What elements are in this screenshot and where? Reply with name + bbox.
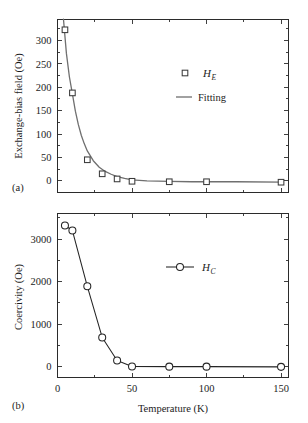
panel-b-x-tick-label: 0	[55, 383, 60, 394]
legend-b-circle-icon	[177, 264, 184, 271]
legend-a-square-icon	[182, 70, 188, 76]
panel-b-data-marker	[203, 363, 210, 370]
panel-b-x-tick-label: 150	[273, 383, 289, 394]
panel-a-data-marker	[70, 90, 76, 96]
legend-a-marker-label-sub: E	[210, 73, 216, 82]
panel-a-data-marker	[99, 171, 105, 177]
panel-b-data-marker	[166, 363, 173, 370]
panel-b-y-tick-label: 3000	[31, 234, 52, 245]
panel-a-data-marker	[204, 179, 210, 185]
panel-a-data-marker	[114, 176, 120, 182]
panel-b-data-marker	[99, 334, 106, 341]
panel-b-data-marker	[129, 363, 136, 370]
panel-b-frame	[58, 214, 289, 378]
panel-b-data-marker	[61, 222, 68, 229]
panel-a-label: (a)	[12, 182, 24, 194]
legend-a-fit-label: Fitting	[198, 92, 227, 103]
panel-b-y-tick-label: 2000	[31, 276, 52, 287]
panel-b-plot: 0100020003000050100150HCCoercivity (Oe)T…	[0, 205, 308, 423]
panel-a-y-tick-label: 50	[41, 152, 52, 163]
panel-a-y-axis-title: Exchange-bias field (Oe)	[13, 53, 25, 159]
panel-b-label: (b)	[12, 400, 25, 412]
panel-a-fitting-curve	[63, 19, 281, 182]
legend-a-marker-label: HE	[202, 67, 216, 82]
panel-b-data-line	[65, 225, 281, 366]
panel-b-x-tick-label: 100	[199, 383, 215, 394]
panel-b-y-tick-label: 0	[46, 361, 51, 372]
panel-a-data-marker	[129, 178, 135, 184]
panel-b-x-tick-label: 50	[127, 383, 138, 394]
panel-a-data-marker	[166, 179, 172, 185]
panel-a-data-marker	[85, 157, 91, 163]
panel-a-exchange-bias-field: 050100150200250300HEFittingExchange-bias…	[0, 0, 308, 212]
panel-b-y-axis-title: Coercivity (Oe)	[13, 263, 25, 330]
panel-b-coercivity: 0100020003000050100150HCCoercivity (Oe)T…	[0, 205, 308, 423]
figure-root: 050100150200250300HEFittingExchange-bias…	[0, 0, 308, 423]
panel-a-frame	[58, 20, 289, 193]
panel-a-y-tick-label: 200	[36, 82, 52, 93]
panel-b-data-marker	[278, 363, 285, 370]
panel-b-x-axis-title: Temperature (K)	[138, 403, 209, 415]
panel-a-y-tick-label: 300	[36, 35, 52, 46]
panel-b-data-marker	[69, 227, 76, 234]
panel-a-y-tick-label: 100	[36, 129, 52, 140]
legend-b-marker-label: HC	[201, 261, 216, 276]
panel-a-y-tick-label: 150	[36, 105, 52, 116]
panel-a-plot: 050100150200250300HEFittingExchange-bias…	[0, 0, 308, 212]
panel-a-y-tick-label: 250	[36, 59, 52, 70]
panel-a-y-tick-label: 0	[46, 175, 51, 186]
panel-b-y-tick-label: 1000	[31, 319, 52, 330]
legend-b-marker-label-sub: C	[210, 267, 216, 276]
panel-b-data-marker	[114, 357, 121, 364]
panel-a-data-marker	[278, 179, 284, 185]
panel-b-data-marker	[84, 283, 91, 290]
panel-a-data-marker	[62, 27, 68, 33]
